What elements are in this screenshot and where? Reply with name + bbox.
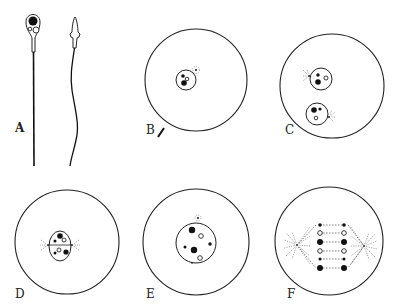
panel-e: E bbox=[143, 189, 249, 301]
panel-label-a: A bbox=[14, 121, 25, 135]
panel-label-e: E bbox=[146, 287, 155, 301]
sperm-front-view bbox=[26, 15, 40, 167]
centrosome-icon bbox=[302, 69, 310, 81]
panel-label-c: C bbox=[285, 123, 294, 137]
sperm-side-view bbox=[70, 17, 80, 166]
panel-label-f: F bbox=[287, 287, 295, 301]
centrosome-icon bbox=[193, 67, 200, 74]
pronucleus bbox=[310, 68, 332, 90]
pronucleus bbox=[306, 103, 328, 125]
panel-f: F bbox=[275, 187, 383, 301]
centrosome-icon bbox=[40, 240, 49, 250]
fertilization-figure: A B bbox=[0, 0, 394, 307]
panel-label-b: B bbox=[146, 123, 155, 137]
egg-cell bbox=[280, 34, 384, 138]
panel-a: A bbox=[14, 15, 80, 167]
chromosome-pairs bbox=[297, 223, 364, 271]
sperm-nucleus-icon bbox=[29, 17, 38, 26]
centrosome-icon bbox=[195, 215, 201, 221]
panel-label-d: D bbox=[15, 287, 25, 301]
panel-d: D bbox=[15, 190, 119, 301]
panel-c: C bbox=[280, 34, 384, 138]
panel-b: B bbox=[145, 29, 247, 137]
centrosome-icon bbox=[328, 110, 336, 122]
aster-right-icon bbox=[351, 227, 377, 264]
centrosome-icon bbox=[71, 240, 80, 250]
entering-sperm-icon bbox=[158, 128, 164, 137]
egg-cell bbox=[275, 187, 383, 295]
